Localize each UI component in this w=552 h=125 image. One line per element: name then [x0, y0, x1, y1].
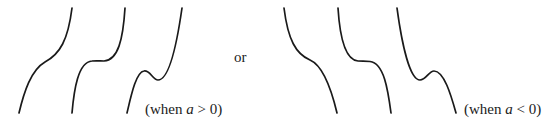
connector-or-text: or	[234, 49, 247, 65]
label-prefix: (when	[464, 101, 505, 117]
label-suffix: > 0)	[194, 101, 222, 117]
label-suffix: < 0)	[513, 101, 541, 117]
curve-decreasing-min-max	[397, 8, 456, 113]
label-a-negative: (when a < 0)	[464, 102, 541, 117]
curve-decreasing-plateau	[338, 8, 391, 113]
label-variable: a	[186, 101, 194, 117]
label-a-positive: (when a > 0)	[145, 102, 222, 117]
curve-increasing-max-min	[127, 8, 182, 113]
curve-increasing-no-turn	[19, 8, 72, 113]
group-a-negative	[284, 8, 456, 113]
group-a-positive	[19, 8, 182, 113]
label-variable: a	[505, 101, 513, 117]
label-prefix: (when	[145, 101, 186, 117]
connector-or: or	[234, 50, 247, 65]
curve-increasing-plateau	[72, 8, 125, 113]
curve-decreasing-no-turn	[284, 8, 337, 113]
